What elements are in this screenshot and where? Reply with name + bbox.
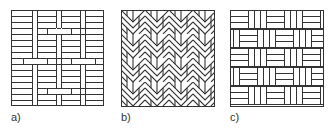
panel-c-pattern bbox=[230, 10, 324, 107]
basket-weave-pattern-graphic bbox=[230, 10, 324, 107]
stack-bond-pattern-graphic bbox=[11, 10, 104, 106]
panel-a-label: a) bbox=[11, 112, 21, 123]
panel-b-label: b) bbox=[121, 112, 131, 123]
herringbone-pattern-graphic bbox=[121, 10, 215, 107]
panel-b-pattern bbox=[121, 10, 215, 107]
panel-a-pattern bbox=[11, 10, 104, 106]
panel-c-label: c) bbox=[230, 112, 239, 123]
